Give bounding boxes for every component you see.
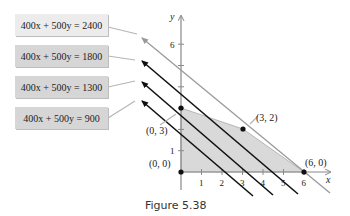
vertex-0-3 [178,105,183,110]
equation-label-1300: 400x + 500y = 1300 [15,76,108,98]
y-tick-label: 6 [170,40,175,50]
vertex-3-2 [240,126,245,131]
y-axis-label: y [169,11,175,22]
x-axis-label: x [325,174,331,185]
equation-label-900: 400x + 500y = 900 [15,107,108,129]
equation-label-2400: 400x + 500y = 2400 [15,14,108,36]
figure-caption: Figure 5.38 [145,199,207,212]
equation-label-1800: 400x + 500y = 1800 [15,45,108,67]
equation-text: 400x + 500y = 1800 [21,51,102,62]
feasible-region [181,108,304,172]
equation-text: 400x + 500y = 900 [23,113,99,124]
vertex-6-0 [301,169,306,174]
x-tick-label: 2 [220,178,225,188]
vertex-0-0 [178,169,183,174]
y-tick-label: 1 [170,146,175,156]
vertex-label-0-0: (0, 0) [149,158,171,170]
x-tick-label: 6 [302,178,307,188]
vertex-label-0-3: (0, 3) [146,125,168,137]
equation-text: 400x + 500y = 2400 [21,20,102,31]
vertex-label-3-2: (3, 2) [256,112,278,124]
equation-text: 400x + 500y = 1300 [21,82,102,93]
x-tick-label: 1 [199,178,204,188]
vertex-label-6-0: (6, 0) [305,157,327,169]
